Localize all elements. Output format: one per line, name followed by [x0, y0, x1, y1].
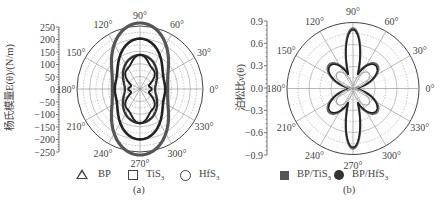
y-tick-label: 250 [40, 22, 55, 33]
angle-label: 60° [170, 19, 184, 30]
angle-label: 300° [168, 148, 187, 159]
legend-hfs3: HfS3 [180, 168, 219, 182]
angle-label: 30° [413, 45, 427, 56]
y-tick-label: 150 [40, 47, 55, 58]
angle-label: 0° [426, 83, 435, 94]
y-tick-label: −100 [34, 109, 55, 120]
y-tick-label: −0.9 [245, 150, 263, 161]
legend-tis3: TiS3 [128, 168, 164, 182]
y-tick-label: 0.6 [251, 38, 264, 49]
legend-bp-label: BP [98, 168, 111, 179]
legend-bp-hfs3-sub: 3 [385, 174, 389, 182]
legend-bp-tis3: BP/TiS3 [280, 168, 331, 182]
filled-circle-marker-icon [334, 170, 344, 180]
y-tick-label: 100 [40, 59, 55, 70]
angle-label: 210° [66, 121, 85, 132]
y-tick-label: 0.0 [251, 83, 264, 94]
angle-label: 150° [277, 45, 296, 56]
legend-bp-tis3-label: BP/TiS [297, 168, 328, 179]
angle-label: 60° [385, 16, 399, 27]
legend-bp: BP [76, 168, 111, 179]
y-tick-label: 200 [40, 34, 55, 45]
angle-label: 330° [195, 121, 214, 132]
y-tick-label: 0.9 [251, 16, 264, 27]
panel-b-caption: (b) [343, 184, 355, 195]
legend-tis3-sub: 3 [161, 174, 165, 182]
angle-label: 90° [346, 6, 360, 17]
circle-marker-icon [180, 170, 191, 181]
y-tick-label: −0.3 [245, 105, 263, 116]
triangle-marker-icon [76, 169, 88, 179]
panel-a-ylabel: 杨氏模量E(θ)/(N/m) [1, 38, 16, 138]
angle-label: 0° [210, 84, 219, 95]
y-tick-label: −0.6 [245, 127, 263, 138]
filled-square-marker-icon [280, 171, 289, 180]
angle-label: 210° [277, 122, 296, 133]
y-tick-label: 50 [45, 72, 55, 83]
angle-label: 120° [94, 19, 113, 30]
y-tick-label: −250 [34, 147, 55, 158]
y-tick-label: −150 [34, 122, 55, 133]
legend-hfs3-sub: 3 [216, 174, 220, 182]
panel-b-ylabel: 泊松比ν(θ) [232, 53, 247, 123]
angle-label: 30° [197, 47, 211, 58]
angle-label: 240° [94, 148, 113, 159]
angle-label: 90° [133, 10, 147, 21]
angle-label: 300° [382, 150, 401, 161]
y-tick-label: −200 [34, 134, 55, 145]
y-tick-label: 0 [50, 84, 55, 95]
square-marker-icon [128, 170, 138, 180]
angle-label: 180° [267, 83, 286, 94]
legend-bp-hfs3: BP/HfS3 [334, 168, 388, 182]
legend-hfs3-label: HfS [199, 168, 216, 179]
legend-bp-hfs3-label: BP/HfS [352, 168, 385, 179]
angle-label: 270° [131, 158, 150, 169]
angle-label: 150° [66, 47, 85, 58]
panel-a-chart: 0°30°60°90°120°150°180°210°240°270°300°3… [34, 10, 218, 169]
legend-bp-tis3-sub: 3 [328, 174, 332, 182]
angle-label: 330° [410, 122, 429, 133]
angle-label: 120° [305, 16, 324, 27]
panel-b-chart: 0°30°60°90°120°150°180°210°240°270°300°3… [245, 6, 435, 171]
legend-tis3-label: TiS [146, 168, 161, 179]
y-tick-label: 0.3 [251, 60, 264, 71]
panel-a-caption: (a) [133, 184, 145, 195]
y-tick-label: −50 [39, 97, 55, 108]
angle-label: 240° [305, 150, 324, 161]
